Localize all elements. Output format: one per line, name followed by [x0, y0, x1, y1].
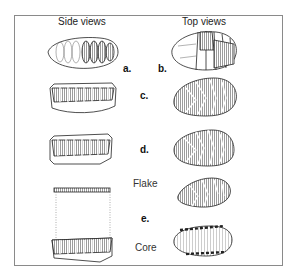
drawing-d-top-view: [174, 130, 234, 166]
drawing-e-core-top-view: [174, 226, 232, 256]
drawing-a-side-view: [48, 38, 118, 69]
drawing-c-top-view: [174, 78, 237, 116]
illustrations: [0, 0, 296, 274]
drawing-c-side-view: [50, 83, 116, 113]
drawing-b-top-view: [172, 31, 237, 70]
drawing-e-side-view: [52, 188, 112, 262]
drawing-e-flake-top-view: [178, 178, 231, 207]
drawing-d-side-view: [50, 134, 112, 164]
